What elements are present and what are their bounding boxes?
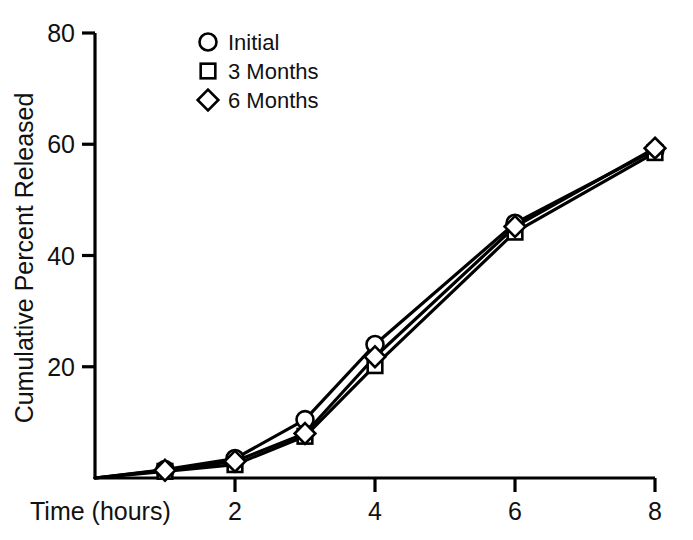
y-axis-title: Cumulative Percent Released bbox=[10, 93, 38, 424]
y-axis-tick-label: 80 bbox=[47, 19, 75, 47]
line-chart: 204060802468 Time (hours)Cumulative Perc… bbox=[0, 0, 693, 540]
chart-container: 204060802468 Time (hours)Cumulative Perc… bbox=[0, 0, 693, 540]
axis-group bbox=[82, 33, 655, 492]
legend-marker-diamond bbox=[198, 90, 219, 111]
x-axis-tick-label: 2 bbox=[228, 497, 242, 525]
x-axis-tick-label: 6 bbox=[508, 497, 522, 525]
legend-label-1: 3 Months bbox=[228, 59, 319, 84]
chart-legend: Initial3 Months6 Months bbox=[198, 30, 319, 113]
y-axis-tick-label: 60 bbox=[47, 130, 75, 158]
legend-label-0: Initial bbox=[228, 30, 279, 55]
x-axis-title: Time (hours) bbox=[30, 497, 171, 525]
series-line-1 bbox=[95, 153, 655, 478]
series-group bbox=[95, 138, 665, 481]
legend-marker-circle bbox=[200, 34, 217, 51]
tick-label-group: 204060802468 bbox=[47, 19, 662, 525]
legend-label-2: 6 Months bbox=[228, 88, 319, 113]
x-axis-tick-label: 4 bbox=[368, 497, 382, 525]
axis-title-group: Time (hours)Cumulative Percent Released bbox=[10, 93, 171, 525]
x-axis-tick-label: 8 bbox=[648, 497, 662, 525]
legend-marker-square bbox=[201, 64, 216, 79]
series-line-2 bbox=[95, 148, 655, 478]
y-axis-tick-label: 40 bbox=[47, 242, 75, 270]
y-axis-tick-label: 20 bbox=[47, 353, 75, 381]
